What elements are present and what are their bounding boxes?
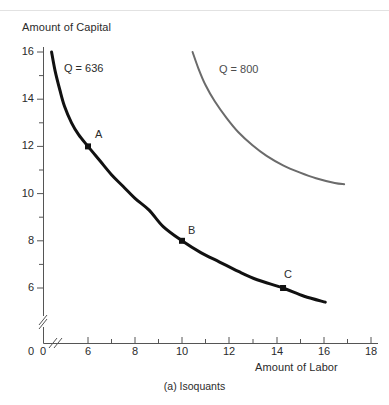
y-tick-label-8: 8 [12,234,34,246]
x-tick-label-18: 18 [356,345,386,357]
data-point-marker-c [280,285,286,291]
curve-label-q800: Q = 800 [219,63,258,75]
y-tick-label-16: 16 [12,45,34,57]
y-tick-label-12: 12 [12,139,34,151]
data-point-markers [85,143,286,291]
series-lines [52,52,345,302]
data-point-marker-b [179,238,185,244]
x-tick-label-12: 12 [214,345,244,357]
series-line-1 [52,52,326,302]
x-tick-label-6: 6 [73,345,103,357]
data-point-marker-a [85,143,91,149]
x-tick-label-0: 0 [28,345,58,357]
point-label-c: C [284,268,292,280]
y-tick-label-14: 14 [12,92,34,104]
figure-caption: (a) Isoquants [0,380,389,392]
x-axis-title: Amount of Labor [255,361,338,373]
x-tick-label-16: 16 [309,345,339,357]
point-label-b: B [188,224,195,236]
y-tick-label-10: 10 [12,187,34,199]
x-tick-label-8: 8 [120,345,150,357]
x-tick-label-14: 14 [262,345,292,357]
point-label-a: A [95,128,102,140]
curve-label-q636: Q = 636 [64,62,103,74]
isoquant-figure: Amount of Capital [0,0,389,405]
x-tick-label-10: 10 [167,345,197,357]
y-tick-label-6: 6 [12,281,34,293]
series-line-2 [193,52,345,184]
